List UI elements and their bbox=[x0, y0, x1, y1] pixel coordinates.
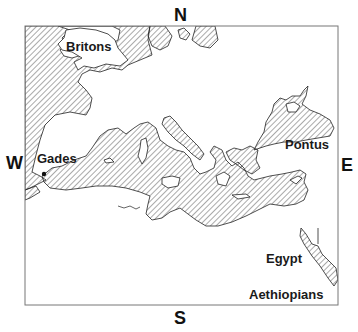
sicily bbox=[162, 176, 180, 188]
compass-east: E bbox=[341, 156, 353, 174]
baltic-sea bbox=[148, 26, 218, 50]
compass-south: S bbox=[174, 309, 186, 327]
compass-north: N bbox=[174, 6, 187, 24]
label-aethiopians: Aethiopians bbox=[249, 288, 323, 301]
gades-marker bbox=[42, 172, 46, 176]
label-britons: Britons bbox=[66, 40, 112, 53]
label-egypt: Egypt bbox=[266, 252, 302, 265]
syrtis-shoals bbox=[118, 206, 140, 209]
compass-west: W bbox=[6, 154, 23, 172]
label-gades: Gades bbox=[37, 152, 77, 165]
label-pontus: Pontus bbox=[285, 138, 329, 151]
map-canvas bbox=[0, 0, 358, 332]
red-sea bbox=[300, 228, 338, 286]
